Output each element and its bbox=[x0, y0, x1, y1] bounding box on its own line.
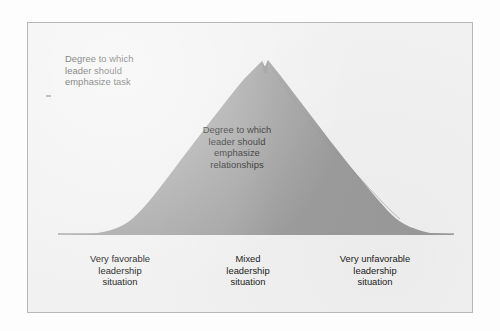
label-emphasize-task: Degree to which leader should emphasize … bbox=[65, 53, 134, 88]
axis-label-very-unfavorable: Very unfavorable leadership situation bbox=[311, 253, 439, 288]
scan-speck bbox=[46, 95, 51, 97]
axis-label-very-favorable: Very favorable leadership situation bbox=[58, 253, 182, 288]
figure-frame: Degree to which leader should emphasize … bbox=[27, 22, 473, 313]
figure-root: Degree to which leader should emphasize … bbox=[0, 0, 500, 331]
label-emphasize-relationships: Degree to which leader should emphasize … bbox=[178, 124, 296, 170]
axis-label-mixed: Mixed leadership situation bbox=[186, 253, 310, 288]
